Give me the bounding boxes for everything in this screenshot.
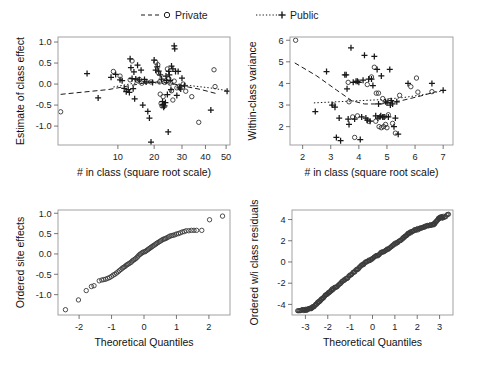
y-tick-label: -2 [277,278,285,288]
x-axis-title: # in class (square root scale) [77,166,211,178]
multi-panel-figure: PrivatePublic 1020304050# in class (squa… [0,0,478,367]
y-tick-label: 2 [278,122,283,132]
x-tick-label: -2 [75,322,83,332]
y-tick-label: -1.0 [36,290,52,300]
y-tick-label: 0.5 [39,58,52,68]
y-tick-label: 4 [280,215,285,225]
x-tick-label: 0 [370,322,375,332]
x-tick-label: 3 [437,322,442,332]
x-tick-label: -1 [107,322,115,332]
x-axis-title: # in class (square root scale) [304,166,438,178]
x-tick-label: 2 [300,152,305,162]
x-tick-label: 2 [206,322,211,332]
y-tick-label: 1.0 [39,209,52,219]
y-tick-label: 1.0 [39,37,52,47]
legend-label: Public [290,9,319,21]
x-tick-label: -2 [324,322,332,332]
y-tick-label: 2 [280,236,285,246]
y-tick-label: 0.5 [39,229,52,239]
y-tick-label: -1.0 [36,121,52,131]
x-tick-label: 1 [174,322,179,332]
y-tick-label: 0.0 [39,79,52,89]
x-tick-label: 50 [221,152,231,162]
y-axis-title: Ordered w/i class residuals [248,199,260,325]
x-tick-label: 2 [415,322,420,332]
x-tick-label: 20 [149,152,159,162]
x-tick-label: 6 [412,152,417,162]
y-tick-label: 4 [278,79,283,89]
y-tick-label: 0 [280,257,285,267]
x-tick-label: -1 [346,322,354,332]
y-tick-label: 0.0 [39,249,52,259]
x-tick-label: 40 [200,152,210,162]
y-tick-label: 5 [278,57,283,67]
y-axis-title: Within-class variance [246,41,258,140]
y-tick-label: -0.5 [36,270,52,280]
x-tick-label: 4 [356,152,361,162]
y-axis-title: Estimate of class effect [14,37,26,145]
x-tick-label: 5 [384,152,389,162]
legend-label: Private [175,9,208,21]
y-tick-label: -4 [277,300,285,310]
x-tick-label: 7 [441,152,446,162]
x-tick-label: 0 [141,322,146,332]
x-tick-label: 30 [177,152,187,162]
y-tick-label: 3 [278,100,283,110]
y-tick-label: -0.5 [36,100,52,110]
y-axis-title: Ordered site effects [14,217,26,308]
x-tick-label: -3 [301,322,309,332]
x-axis-title: Theoretical Quantiles [94,336,193,348]
figure-background [0,0,478,367]
x-tick-label: 10 [113,152,123,162]
x-tick-label: 1 [392,322,397,332]
y-tick-label: 6 [278,36,283,46]
x-tick-label: 3 [328,152,333,162]
x-axis-title: Theoretical Quantiles [323,336,422,348]
